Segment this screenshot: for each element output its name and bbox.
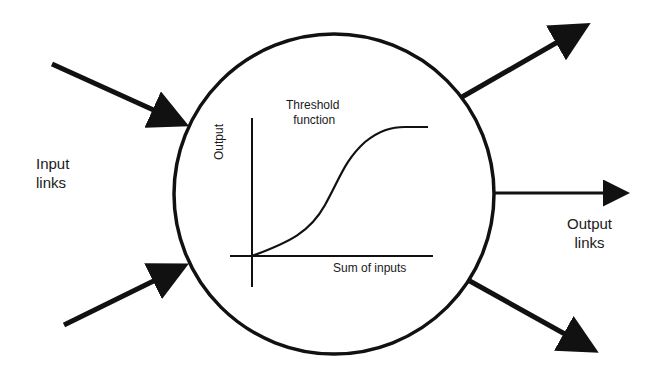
output-label-line2: links <box>567 234 612 253</box>
neuron-diagram <box>0 0 663 375</box>
input-links-label: Input links <box>36 155 69 193</box>
input-arrow-bottom <box>64 268 180 325</box>
chart-title: Threshold function <box>286 98 339 128</box>
input-label-line2: links <box>36 174 69 193</box>
threshold-curve <box>252 127 428 256</box>
output-arrow-bottom <box>468 280 590 348</box>
input-label-line1: Input <box>36 155 69 174</box>
y-axis-label: Output <box>212 100 227 160</box>
x-axis-label: Sum of inputs <box>333 261 406 276</box>
output-arrow-top <box>462 28 582 97</box>
chart-title-line2: function <box>289 113 339 128</box>
output-label-line1: Output <box>567 215 612 234</box>
chart-title-line1: Threshold <box>286 98 339 113</box>
neuron-circle <box>174 34 494 354</box>
output-links-label: Output links <box>567 215 612 253</box>
input-arrow-top <box>52 64 180 122</box>
